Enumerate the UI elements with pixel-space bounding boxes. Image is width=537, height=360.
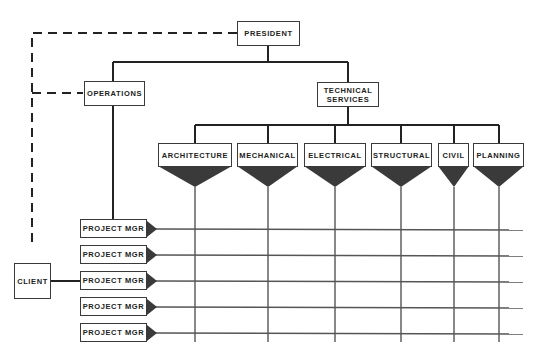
discipline-electrical: ELECTRICAL bbox=[304, 143, 366, 167]
project-grid-lines bbox=[155, 229, 523, 334]
project-manager-4: PROJECT MGR bbox=[80, 297, 147, 316]
dashed-relationship-lines bbox=[32, 33, 237, 247]
discipline-structural: STRUCTURAL bbox=[371, 143, 432, 167]
project-manager-1: PROJECT MGR bbox=[80, 219, 147, 238]
technical-services-node: TECHNICAL SERVICES bbox=[317, 82, 379, 107]
discipline-triangles bbox=[158, 166, 524, 187]
operations-node: OPERATIONS bbox=[84, 81, 145, 106]
discipline-planning: PLANNING bbox=[473, 143, 524, 167]
project-manager-2: PROJECT MGR bbox=[80, 245, 147, 264]
discipline-civil: CIVIL bbox=[438, 143, 469, 167]
project-manager-arrows bbox=[147, 221, 157, 341]
project-manager-3: PROJECT MGR bbox=[80, 271, 147, 290]
project-manager-5: PROJECT MGR bbox=[80, 323, 147, 342]
discipline-mechanical: MECHANICAL bbox=[237, 143, 298, 167]
president-node: PRESIDENT bbox=[237, 21, 300, 46]
technical-services-line2: SERVICES bbox=[327, 95, 370, 104]
discipline-architecture: ARCHITECTURE bbox=[158, 143, 232, 167]
client-node: CLIENT bbox=[14, 263, 51, 299]
discipline-grid-lines bbox=[195, 187, 499, 342]
technical-services-line1: TECHNICAL bbox=[324, 86, 373, 95]
